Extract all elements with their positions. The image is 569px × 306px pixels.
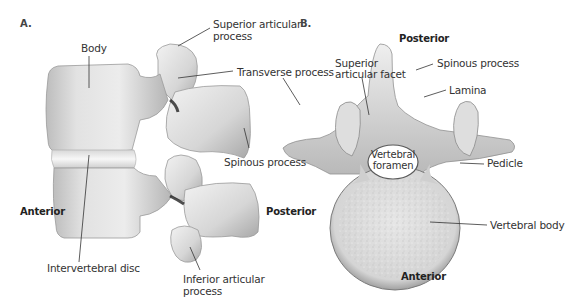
label-pedicle: Pedicle <box>487 157 523 169</box>
label-superior-articular-process-a-line2: process <box>213 30 252 42</box>
label-vertebral-foramen-line1: Vertebral <box>368 149 418 160</box>
label-superior-articular-process-a-line1: Superior articular <box>213 18 301 30</box>
label-lamina: Lamina <box>449 84 486 96</box>
panel-b-letter: B. <box>300 18 311 29</box>
label-vertebral-foramen-line2: foramen <box>368 160 418 171</box>
vertebra-anatomy-figure: A. Body Superior articular process Trans… <box>0 0 569 306</box>
label-anterior-b: Anterior <box>401 271 446 283</box>
label-anterior-a: Anterior <box>20 206 65 218</box>
label-vertebral-body: Vertebral body <box>490 219 565 231</box>
label-spinous-process-a: Spinous process <box>224 156 306 168</box>
label-body: Body <box>81 42 107 54</box>
label-inferior-articular-process-line2: process <box>183 285 222 297</box>
panel-a-letter: A. <box>20 18 32 29</box>
label-inferior-articular-process-line1: Inferior articular <box>183 273 265 285</box>
label-posterior-a: Posterior <box>266 206 316 218</box>
label-intervertebral-disc: Intervertebral disc <box>47 262 140 274</box>
label-posterior-b: Posterior <box>399 33 449 45</box>
label-spinous-process-b: Spinous process <box>437 57 519 69</box>
label-superior-articular-facet-line2: articular facet <box>335 68 406 80</box>
label-transverse-process: Transverse process <box>237 66 334 78</box>
